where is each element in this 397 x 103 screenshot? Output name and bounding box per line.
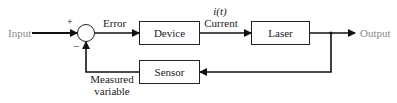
minus-sign: − bbox=[73, 40, 79, 52]
plus-sign: + bbox=[67, 16, 73, 27]
measured-variable-label-line2: variable bbox=[94, 85, 130, 97]
output-label: Output bbox=[360, 27, 391, 39]
input-label: Input bbox=[8, 27, 31, 39]
measured-variable-label-line1: Measured bbox=[90, 73, 134, 85]
sensor-label: Sensor bbox=[155, 66, 185, 78]
current-label: Current bbox=[204, 17, 238, 29]
summing-junction bbox=[78, 25, 95, 42]
laser-label: Laser bbox=[268, 27, 293, 39]
error-label: Error bbox=[103, 17, 127, 29]
device-label: Device bbox=[154, 27, 185, 39]
feedback-block-diagram: Input + − Error Device i(t) Current Lase… bbox=[0, 0, 397, 103]
feedback-to-junction-arrow bbox=[86, 42, 139, 72]
